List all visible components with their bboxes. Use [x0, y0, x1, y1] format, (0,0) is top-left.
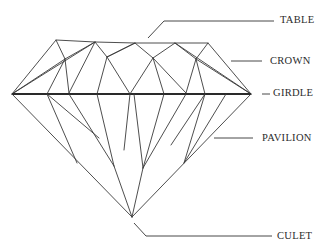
crown-facets	[12, 40, 251, 94]
crown-label: CROWN	[270, 56, 311, 67]
pavilion-facets	[12, 94, 251, 217]
culet-label: CULET	[277, 231, 312, 242]
table-leader-line	[148, 21, 274, 38]
table-label: TABLE	[280, 15, 315, 26]
diamond-diagram	[0, 0, 330, 249]
culet-leader-line	[134, 223, 272, 236]
girdle-label: GIRDLE	[273, 88, 313, 99]
pavilion-label: PAVILION	[262, 133, 312, 144]
